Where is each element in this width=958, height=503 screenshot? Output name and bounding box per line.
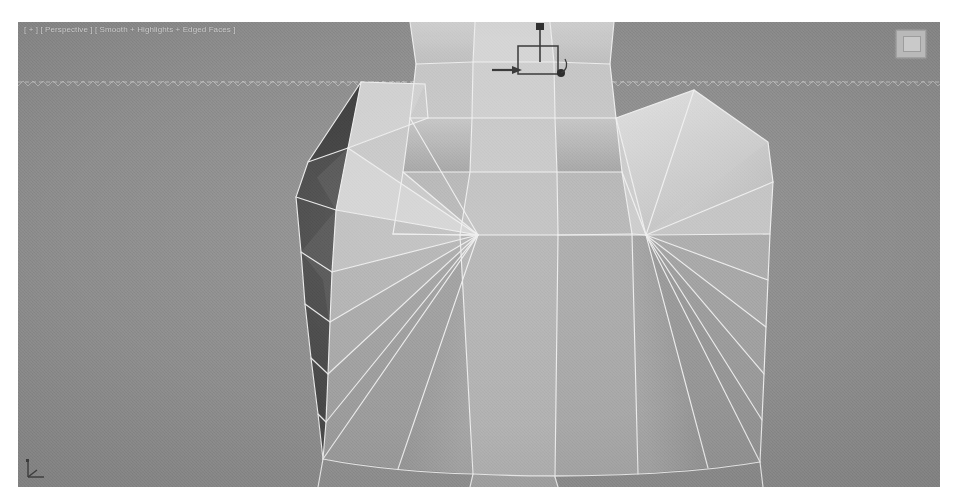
mesh-face-center-body-left (460, 235, 558, 477)
mesh-character-torso[interactable] (296, 22, 773, 487)
perspective-viewport[interactable]: [ + ] [ Perspective ] [ Smooth + Highlig… (18, 22, 940, 487)
view-cube-front-face[interactable] (903, 36, 921, 52)
mesh-face-chest-mid-center (470, 118, 557, 172)
mesh-face-neck-left (410, 22, 475, 64)
axis-tripod (24, 455, 50, 481)
gizmo-z-handle[interactable] (536, 23, 544, 30)
mesh-face-center-body-right (555, 234, 638, 477)
viewport-label[interactable]: [ + ] [ Perspective ] [ Smooth + Highlig… (24, 25, 236, 35)
viewport-3d-scene (18, 22, 940, 487)
gizmo-x-arrowhead[interactable] (512, 66, 522, 74)
gizmo-xy-plane-handle[interactable] (518, 46, 558, 74)
axis-tripod-z-cap (26, 459, 29, 462)
transform-gizmo-move[interactable] (478, 22, 588, 90)
view-cube[interactable] (896, 30, 926, 58)
application-window: [ + ] [ Perspective ] [ Smooth + Highlig… (0, 0, 958, 503)
mesh-face-chest-mid-right (555, 118, 622, 172)
mesh-face-chest-low-right (557, 172, 632, 235)
mesh-face-chest-mid-left (403, 118, 472, 172)
mesh-face-chest-low-center (460, 172, 558, 235)
